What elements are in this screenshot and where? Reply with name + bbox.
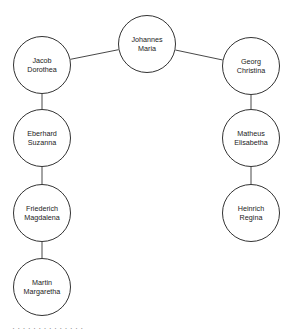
cropped-caption-text: · · · · · · · · · · · · · · <box>0 324 293 329</box>
node-friederich: FriederichMagdalena <box>13 184 71 242</box>
node-name-primary: Eberhard <box>27 129 57 138</box>
node-heinrich: HeinrichRegina <box>222 184 280 242</box>
node-name-primary: Martin <box>32 278 52 287</box>
node-name-primary: Heinrich <box>238 204 264 213</box>
node-name-secondary: Magdalena <box>24 213 60 222</box>
node-name-primary: Matheus <box>237 129 265 138</box>
node-name-primary: Friederich <box>26 204 58 213</box>
node-name-secondary: Maria <box>138 44 156 53</box>
node-name-secondary: Christina <box>237 66 265 75</box>
node-name-primary: Georg <box>241 57 261 66</box>
node-georg: GeorgChristina <box>222 37 280 95</box>
edge-johannes-georg <box>175 50 222 60</box>
node-martin: MartinMargaretha <box>13 258 71 316</box>
node-name-secondary: Dorothea <box>27 65 57 74</box>
node-johannes: JohannesMaria <box>118 15 176 73</box>
node-name-secondary: Regina <box>240 213 263 222</box>
node-matheus: MatheusElisabetha <box>222 109 280 167</box>
node-name-secondary: Elisabetha <box>234 138 268 147</box>
family-tree-diagram: JohannesMariaJacobDorotheaGeorgChristina… <box>0 0 293 329</box>
node-name-primary: Johannes <box>131 35 162 44</box>
node-jacob: JacobDorothea <box>13 36 71 94</box>
node-name-secondary: Suzanna <box>28 138 56 147</box>
node-name-primary: Jacob <box>32 56 51 65</box>
node-name-secondary: Margaretha <box>24 287 61 296</box>
node-eberhard: EberhardSuzanna <box>13 109 71 167</box>
edge-johannes-jacob <box>70 50 118 60</box>
